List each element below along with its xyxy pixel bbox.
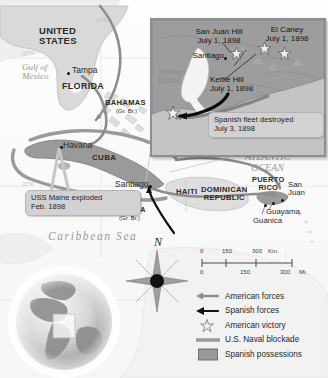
scale-mi-300: 300 bbox=[280, 269, 290, 275]
label-guayama: Guayama bbox=[266, 208, 300, 216]
legend-american-forces-label: American forces bbox=[225, 292, 284, 301]
inset-el-caney-date: July 1, 1898 bbox=[252, 35, 322, 44]
label-united-states: UNITED STATES bbox=[39, 26, 77, 46]
scale-km-0: 0 bbox=[200, 248, 203, 254]
inset-label-el-caney: El Caney July 1, 1898 bbox=[252, 26, 322, 44]
inset-label-santiago: Santiago bbox=[180, 52, 224, 61]
star-spanish-fleet-destroyed bbox=[166, 106, 180, 120]
scale-mi-unit: Mi. bbox=[299, 269, 307, 275]
grid-label-80w: 80°W bbox=[96, 17, 108, 23]
uss-maine-leader bbox=[45, 148, 85, 194]
label-puerto-rico: PUERTO RICO bbox=[252, 176, 284, 192]
label-dominican-republic: DOMINICAN REPUBLIC bbox=[201, 186, 248, 202]
map-legend: American forces Spanish forces American … bbox=[196, 290, 324, 363]
uss-maine-line2: Feb. 1898 bbox=[31, 203, 135, 212]
label-florida: FLORIDA bbox=[62, 82, 104, 91]
scale-bar-ruler bbox=[200, 258, 316, 268]
inset-label-santiago-harbor: Santiago Harbor bbox=[158, 68, 212, 85]
inset-kettle-hill-date: July 1, 1898 bbox=[210, 85, 280, 94]
inset-harbor-line2: Harbor bbox=[158, 77, 212, 86]
scale-km-150: 150 bbox=[222, 248, 232, 254]
map-canvas: 80°W 30°N 20°N UNITED STATES FLORIDA Tam… bbox=[0, 0, 328, 378]
scale-km-300: 300 bbox=[252, 248, 262, 254]
legend-american-forces: American forces bbox=[196, 290, 324, 302]
scale-km-unit: Km. bbox=[268, 248, 279, 254]
globe-locator-inset bbox=[6, 266, 126, 378]
inset-santiago-name: Santiago bbox=[180, 52, 224, 61]
star-san-juan-hill bbox=[230, 47, 243, 60]
label-gulf-of-mexico: Gulf of Mexico bbox=[22, 63, 48, 82]
santiago-battle-inset: San Juan Hill July 1, 1898 El Caney July… bbox=[150, 18, 326, 157]
label-guanica: Guánica bbox=[253, 217, 282, 225]
inset-label-san-juan-hill: San Juan Hill July 1, 1898 bbox=[174, 28, 264, 46]
label-bahamas-sublabel: (Gr. Br.) bbox=[116, 108, 137, 114]
santiago-inset-dot bbox=[224, 57, 227, 60]
scale-bar: 0 150 300 Km. 0 150 300 Mi. bbox=[200, 248, 316, 280]
compass-rose bbox=[126, 250, 188, 312]
inset-san-juan-hill-date: July 1, 1898 bbox=[174, 37, 264, 46]
thick-line-icon bbox=[196, 334, 220, 346]
legend-naval-blockade-label: U.S. Naval blockade bbox=[225, 335, 299, 344]
label-haiti: HAITI bbox=[176, 188, 197, 196]
guanica-dot bbox=[264, 204, 267, 207]
san-juan-dot bbox=[281, 199, 284, 202]
santiago-dot bbox=[149, 185, 152, 188]
tampa-dot bbox=[67, 72, 70, 75]
spanish-fleet-line2: July 3, 1898 bbox=[214, 125, 318, 134]
legend-spanish-forces-label: Spanish forces bbox=[225, 306, 279, 315]
compass-north-label: N bbox=[154, 236, 162, 249]
arrow-light-icon bbox=[196, 290, 220, 302]
legend-spanish-possessions-label: Spanish possessions bbox=[225, 350, 302, 359]
star-icon bbox=[196, 319, 220, 331]
swatch-icon bbox=[196, 348, 220, 360]
legend-spanish-forces: Spanish forces bbox=[196, 305, 324, 317]
guayama-dot bbox=[272, 202, 275, 205]
scale-mi-150: 150 bbox=[240, 269, 250, 275]
legend-spanish-possessions: Spanish possessions bbox=[196, 348, 324, 360]
star-el-caney bbox=[278, 47, 291, 60]
label-cuba: CUBA bbox=[92, 154, 116, 162]
legend-naval-blockade: U.S. Naval blockade bbox=[196, 334, 324, 346]
spanish-fleet-callout: Spanish fleet destroyed July 3, 1898 bbox=[208, 112, 324, 138]
inset-label-kettle-hill: Kettle Hill July 1, 1898 bbox=[210, 76, 280, 94]
grid-label-30n: 30°N bbox=[22, 50, 33, 56]
label-tampa: Tampa bbox=[72, 66, 98, 75]
arrow-dark-icon bbox=[196, 305, 220, 317]
grid-label-20n: 20°N bbox=[22, 181, 33, 187]
legend-american-victory: American victory bbox=[196, 319, 324, 331]
label-jamaica-sublabel: (Gr. Br.) bbox=[119, 215, 140, 221]
label-caribbean-sea: Caribbean Sea bbox=[48, 230, 137, 242]
legend-american-victory-label: American victory bbox=[225, 321, 286, 330]
label-santiago: Santiago bbox=[115, 180, 149, 189]
label-san-juan: San Juan bbox=[288, 181, 305, 197]
label-bahamas: BAHAMAS bbox=[105, 99, 146, 107]
scale-mi-0: 0 bbox=[200, 269, 203, 275]
